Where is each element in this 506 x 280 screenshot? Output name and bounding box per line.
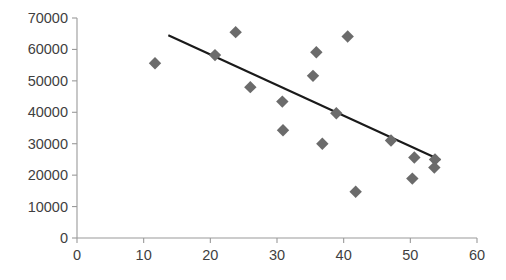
data-point-marker [330,107,342,119]
data-point-marker [310,46,322,58]
data-point-marker [229,26,241,38]
x-tick-label: 30 [269,247,285,263]
y-tick-label: 20000 [28,167,68,183]
data-point-marker [149,57,161,69]
data-point-marker [406,172,418,184]
y-tick-label: 30000 [28,136,68,152]
x-tick-label: 20 [202,247,218,263]
y-tick-label: 50000 [28,73,68,89]
data-point-marker [428,161,440,173]
y-tick-label: 10000 [28,199,68,215]
data-point-marker [307,70,319,82]
trend-line [168,35,440,160]
data-point-marker [244,81,256,93]
plot-area: 0100002000030000400005000060000700000102… [0,0,506,280]
x-tick-label: 50 [402,247,418,263]
data-point-marker [277,124,289,136]
x-tick-label: 10 [136,247,152,263]
data-point-marker [341,30,353,42]
data-point-marker [316,138,328,150]
x-tick-label: 0 [73,247,81,263]
data-point-marker [408,151,420,163]
y-tick-label: 0 [60,230,68,246]
y-tick-label: 60000 [28,41,68,57]
y-tick-label: 40000 [28,104,68,120]
x-tick-label: 60 [469,247,485,263]
y-tick-label: 70000 [28,10,68,26]
scatter-chart: 0100002000030000400005000060000700000102… [0,0,506,280]
x-tick-label: 40 [336,247,352,263]
data-point-marker [349,186,361,198]
data-point-marker [276,95,288,107]
